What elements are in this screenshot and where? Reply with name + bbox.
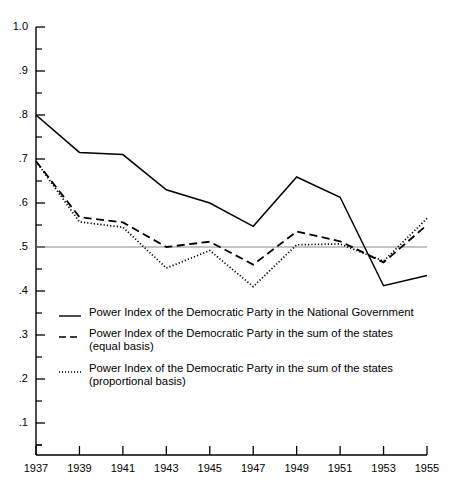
- y-axis-tick-label: .6: [2, 197, 28, 208]
- list-item: Power Index of the Democratic Party in t…: [58, 306, 438, 319]
- chart-container: 1.0.9.8.7.6.5.4.3.2.1 193719391941194319…: [0, 0, 449, 493]
- chart-legend: Power Index of the Democratic Party in t…: [58, 306, 438, 396]
- x-axis-tick-label: 1951: [320, 463, 360, 474]
- dashed-line-swatch-icon: [58, 331, 82, 343]
- x-axis-tick-label: 1945: [190, 463, 230, 474]
- list-item: Power Index of the Democratic Party in t…: [58, 327, 438, 353]
- x-axis-tick-label: 1943: [146, 463, 186, 474]
- solid-line-swatch-icon: [58, 310, 82, 322]
- x-axis-tick-label: 1947: [233, 463, 273, 474]
- x-axis-tick-label: 1955: [407, 463, 447, 474]
- series-line-2: [36, 161, 427, 286]
- y-axis-tick-label: .5: [2, 241, 28, 252]
- y-axis-tick-label: .2: [2, 373, 28, 384]
- y-axis-tick-label: .1: [2, 417, 28, 428]
- y-axis-tick-label: .8: [2, 109, 28, 120]
- y-axis-tick-label: .9: [2, 65, 28, 76]
- legend-item-label: Power Index of the Democratic Party in t…: [89, 327, 393, 353]
- legend-item-label: Power Index of the Democratic Party in t…: [89, 306, 414, 319]
- x-axis-tick-label: 1941: [103, 463, 143, 474]
- y-axis-tick-label: .3: [2, 329, 28, 340]
- series-line-0: [36, 115, 427, 286]
- series-line-1: [36, 161, 427, 264]
- x-axis-tick-label: 1937: [16, 463, 56, 474]
- x-axis-tick-label: 1939: [59, 463, 99, 474]
- y-axis-tick-label: .7: [2, 153, 28, 164]
- y-axis-tick-label: 1.0: [2, 21, 28, 32]
- y-axis-tick-label: .4: [2, 285, 28, 296]
- x-axis-tick-label: 1949: [277, 463, 317, 474]
- list-item: Power Index of the Democratic Party in t…: [58, 362, 438, 388]
- dotted-line-swatch-icon: [58, 366, 82, 378]
- x-axis-tick-label: 1953: [364, 463, 404, 474]
- legend-item-label: Power Index of the Democratic Party in t…: [89, 362, 393, 388]
- plot-area: [0, 0, 449, 493]
